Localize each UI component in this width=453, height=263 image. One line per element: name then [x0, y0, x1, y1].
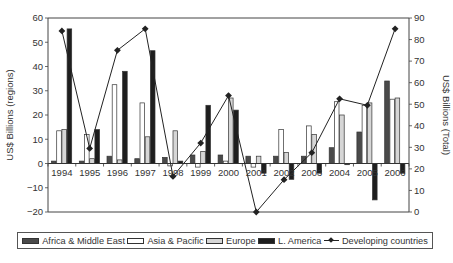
- bar: [123, 71, 128, 163]
- bar: [57, 131, 62, 164]
- svg-text:80: 80: [414, 34, 425, 45]
- bar: [274, 156, 279, 163]
- x-axis-labels: 1994199519961997199819992000200120022003…: [51, 167, 405, 178]
- bar: [190, 155, 195, 164]
- bar: [307, 126, 312, 164]
- bar: [95, 130, 100, 164]
- svg-text:90: 90: [414, 12, 425, 23]
- svg-text:0: 0: [414, 206, 419, 217]
- legend-label: Africa & Middle East: [42, 236, 125, 246]
- bar: [112, 85, 117, 164]
- svg-text:30: 30: [32, 85, 43, 96]
- svg-text:1997: 1997: [135, 167, 156, 178]
- svg-text:40: 40: [414, 120, 425, 131]
- bar: [163, 157, 168, 163]
- diamond-marker-icon: [336, 95, 343, 102]
- svg-text:−20: −20: [27, 206, 43, 217]
- line-diamond-icon: [324, 237, 339, 245]
- svg-text:1994: 1994: [51, 167, 72, 178]
- left-axis: −20−100102030405060: [27, 12, 48, 217]
- svg-text:0: 0: [38, 158, 43, 169]
- bar: [67, 29, 72, 164]
- bar: [256, 156, 261, 163]
- legend-label: Europe: [226, 236, 256, 246]
- bar: [135, 159, 140, 164]
- diamond-marker-icon: [58, 28, 65, 35]
- legend-swatch-europe: [206, 238, 223, 244]
- legend-swatch-africa: [22, 238, 39, 244]
- bar: [334, 102, 339, 164]
- svg-text:1996: 1996: [107, 167, 128, 178]
- svg-text:50: 50: [32, 37, 43, 48]
- legend-item-europe: Europe: [206, 236, 256, 246]
- svg-text:10: 10: [32, 134, 43, 145]
- svg-text:10: 10: [414, 185, 425, 196]
- bar: [246, 156, 251, 163]
- right-axis-title: US$ Billions (Total): [441, 75, 452, 155]
- legend-label: Developing countries: [342, 236, 428, 246]
- bar: [385, 81, 390, 164]
- bar: [284, 153, 289, 164]
- bar: [362, 105, 367, 163]
- bar: [62, 130, 67, 164]
- legend: Africa & Middle East Asia & Pacific Euro…: [17, 232, 433, 249]
- chart: −20−100102030405060 0102030405060708090 …: [0, 0, 453, 230]
- svg-text:50: 50: [414, 99, 425, 110]
- legend-label: Asia & Pacific: [147, 236, 203, 246]
- svg-text:2002: 2002: [273, 167, 294, 178]
- bar: [367, 103, 372, 164]
- svg-text:2004: 2004: [329, 167, 350, 178]
- diamond-marker-icon: [392, 25, 399, 32]
- svg-text:1999: 1999: [190, 167, 211, 178]
- bar: [357, 132, 362, 164]
- svg-text:2003: 2003: [301, 167, 322, 178]
- legend-item-latin-america: L. America: [258, 236, 321, 246]
- bar: [140, 103, 145, 164]
- left-axis-title: US$ Billions (regions): [4, 69, 15, 160]
- svg-text:20: 20: [414, 163, 425, 174]
- bar: [201, 151, 206, 163]
- svg-text:70: 70: [414, 55, 425, 66]
- svg-text:2005: 2005: [357, 167, 378, 178]
- bar: [206, 105, 211, 163]
- svg-text:−10: −10: [27, 182, 43, 193]
- bar: [145, 137, 150, 164]
- svg-text:1995: 1995: [79, 167, 100, 178]
- svg-text:2006: 2006: [385, 167, 406, 178]
- svg-text:20: 20: [32, 109, 43, 120]
- svg-text:40: 40: [32, 61, 43, 72]
- bar: [340, 115, 345, 164]
- svg-text:2000: 2000: [218, 167, 239, 178]
- svg-text:30: 30: [414, 142, 425, 153]
- bar: [329, 148, 334, 164]
- legend-swatch-latin-america: [258, 238, 275, 244]
- legend-item-asia: Asia & Pacific: [127, 236, 203, 246]
- bar: [173, 131, 178, 164]
- bar: [90, 159, 95, 164]
- legend-swatch-asia: [127, 238, 144, 244]
- svg-text:2001: 2001: [246, 167, 267, 178]
- legend-item-africa: Africa & Middle East: [22, 236, 125, 246]
- bar: [107, 156, 112, 163]
- bar: [279, 130, 284, 164]
- bar: [218, 155, 223, 164]
- svg-text:1998: 1998: [162, 167, 183, 178]
- bar: [229, 98, 234, 164]
- bar: [117, 160, 122, 164]
- right-axis: 0102030405060708090: [409, 12, 425, 217]
- bar: [395, 98, 400, 164]
- svg-text:60: 60: [32, 12, 43, 23]
- legend-label: L. America: [278, 236, 321, 246]
- legend-item-developing: Developing countries: [324, 236, 428, 246]
- svg-text:60: 60: [414, 77, 425, 88]
- bar: [390, 99, 395, 163]
